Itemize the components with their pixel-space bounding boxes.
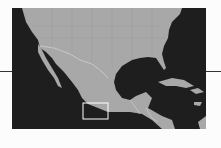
map-graphic <box>12 8 206 129</box>
leader-line-right <box>206 71 221 72</box>
leader-line-left <box>0 71 12 72</box>
locator-map <box>12 8 206 129</box>
